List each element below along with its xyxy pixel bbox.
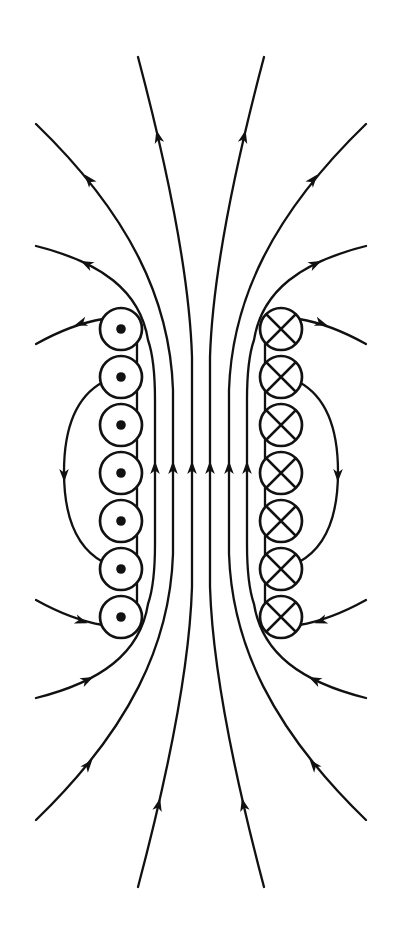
dot-icon [116, 612, 126, 622]
solenoid-field-diagram [0, 0, 401, 939]
dot-icon [116, 372, 126, 382]
conductor-current-in [260, 356, 302, 398]
dot-icon [116, 420, 126, 430]
conductor-current-in [260, 596, 302, 638]
conductor-current-out [100, 500, 142, 542]
dot-icon [116, 516, 126, 526]
diagram-background [0, 0, 401, 939]
conductor-current-in [260, 548, 302, 590]
dot-icon [116, 468, 126, 478]
conductor-current-out [100, 548, 142, 590]
conductor-current-in [260, 404, 302, 446]
conductor-current-in [260, 308, 302, 350]
conductor-current-in [260, 452, 302, 494]
conductor-current-out [100, 356, 142, 398]
conductor-current-out [100, 452, 142, 494]
dot-icon [116, 564, 126, 574]
conductor-current-in [260, 500, 302, 542]
conductor-current-out [100, 308, 142, 350]
dot-icon [116, 324, 126, 334]
conductor-current-out [100, 404, 142, 446]
diagram-canvas [0, 0, 401, 939]
conductor-current-out [100, 596, 142, 638]
